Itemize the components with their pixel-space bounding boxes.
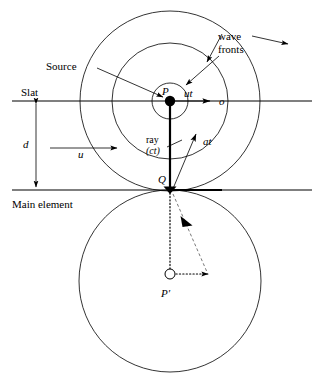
source-point-dot bbox=[165, 96, 175, 106]
wave-fronts-leader-inner bbox=[186, 56, 219, 85]
label-at: at bbox=[203, 135, 213, 147]
label-ray: ray bbox=[146, 134, 159, 145]
source-leader-line bbox=[97, 68, 163, 97]
label-d: d bbox=[23, 138, 29, 150]
label-wave-fronts-line2: fronts bbox=[218, 43, 244, 55]
label-P: P bbox=[161, 85, 169, 97]
label-Q: Q bbox=[158, 173, 166, 185]
diagram-canvas: d u Slat Main element Source wave fronts… bbox=[0, 0, 312, 378]
label-wave-fronts-line1: wave bbox=[218, 30, 241, 42]
label-P-prime: P′ bbox=[160, 287, 171, 299]
label-ut: ut bbox=[184, 87, 194, 99]
physics-diagram-svg: d u Slat Main element Source wave fronts… bbox=[0, 0, 312, 378]
wave-fronts-leader-outer bbox=[252, 36, 288, 44]
label-ct: (ct) bbox=[146, 145, 161, 157]
p-prime-point-circle bbox=[165, 269, 175, 279]
label-slat: Slat bbox=[21, 86, 38, 98]
label-source: Source bbox=[46, 60, 77, 72]
label-u: u bbox=[78, 148, 84, 160]
q-diagonal-dashed-line bbox=[173, 194, 207, 272]
label-main-element: Main element bbox=[12, 198, 73, 210]
label-o-axis: o bbox=[219, 95, 225, 107]
q-diagonal-arrowhead bbox=[181, 216, 193, 227]
